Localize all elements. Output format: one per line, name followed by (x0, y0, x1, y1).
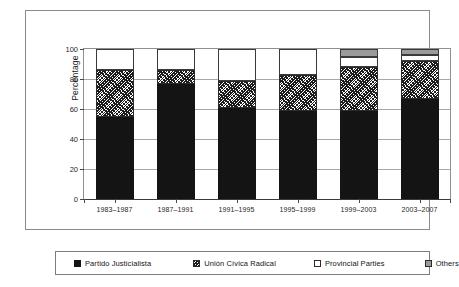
y-axis-tick-label: 20 (70, 165, 78, 174)
x-axis-tick (237, 199, 238, 203)
bar-segment-others (340, 49, 378, 57)
bar-stack (401, 49, 439, 199)
legend-item: Unión Cívica Radical (193, 259, 276, 268)
legend-item: Provincial Parties (314, 259, 385, 268)
legend-item: Others (425, 259, 459, 268)
y-axis-tick (80, 169, 84, 170)
gray-square-icon (425, 260, 432, 267)
gridline (84, 79, 450, 80)
bar-stack (279, 49, 317, 199)
chart-plot-frame: Percentage 0204060801001983–19871987–199… (25, 10, 430, 230)
black-square-icon (74, 260, 81, 267)
gridline (84, 169, 450, 170)
bar-segment-provincial-parties (279, 49, 317, 75)
bar-segment-partido-justicialista (96, 117, 134, 199)
y-axis-tick-label: 100 (65, 45, 78, 54)
y-axis-tick (80, 79, 84, 80)
bar-segment-union-civica-radical (340, 67, 378, 111)
bar-segment-others (401, 49, 439, 55)
bar-segment-partido-justicialista (218, 108, 256, 200)
bar-segment-union-civica-radical (279, 75, 317, 112)
chart-legend: Partido JusticialistaUnión Cívica Radica… (55, 251, 430, 275)
gridline (84, 139, 450, 140)
bar-stack (340, 49, 378, 199)
x-axis-tick (298, 199, 299, 203)
x-axis-tick-label: 1991–1995 (219, 206, 255, 213)
x-axis-tick (84, 199, 85, 203)
white-square-icon (314, 260, 321, 267)
bar-segment-partido-justicialista (401, 99, 439, 200)
y-axis-tick-label: 40 (70, 135, 78, 144)
bar-stack (218, 49, 256, 199)
legend-item-label: Others (436, 259, 459, 268)
legend-item: Partido Justicialista (74, 259, 151, 268)
bar-segment-provincial-parties (218, 49, 256, 81)
bar-segment-union-civica-radical (157, 70, 195, 84)
x-axis-tick-label: 1987–1991 (158, 206, 194, 213)
legend-item-label: Partido Justicialista (85, 259, 151, 268)
y-axis-tick (80, 109, 84, 110)
x-axis-tick (176, 199, 177, 203)
plot-area: 0204060801001983–19871987–19911991–19951… (83, 48, 451, 200)
bar-segment-partido-justicialista (157, 84, 195, 199)
bar-segment-partido-justicialista (279, 111, 317, 199)
y-axis-tick-label: 80 (70, 75, 78, 84)
bar-stack (96, 49, 134, 199)
bar-segment-union-civica-radical (401, 61, 439, 99)
x-axis-tick (359, 199, 360, 203)
bar-segment-provincial-parties (96, 49, 134, 70)
x-axis-tick (450, 199, 451, 203)
hatched-square-icon (193, 260, 200, 267)
x-axis-tick (420, 199, 421, 203)
legend-item-label: Unión Cívica Radical (204, 259, 276, 268)
bar-segment-provincial-parties (157, 49, 195, 70)
bar-segment-provincial-parties (340, 57, 378, 68)
bar-segment-union-civica-radical (218, 81, 256, 108)
y-axis-tick (80, 49, 84, 50)
bar-segment-provincial-parties (401, 55, 439, 61)
y-axis-tick-label: 60 (70, 105, 78, 114)
y-axis-tick (80, 139, 84, 140)
x-axis-tick-label: 2003–2007 (402, 206, 438, 213)
x-axis-tick-label: 1983–1987 (97, 206, 133, 213)
y-axis-tick-label: 0 (74, 195, 78, 204)
gridline (84, 109, 450, 110)
legend-item-label: Provincial Parties (325, 259, 385, 268)
bar-segment-partido-justicialista (340, 111, 378, 199)
x-axis-tick-label: 1995–1999 (280, 206, 316, 213)
x-axis-tick (115, 199, 116, 203)
x-axis-tick-label: 1999–2003 (341, 206, 377, 213)
bar-stack (157, 49, 195, 199)
bar-segment-union-civica-radical (96, 70, 134, 117)
